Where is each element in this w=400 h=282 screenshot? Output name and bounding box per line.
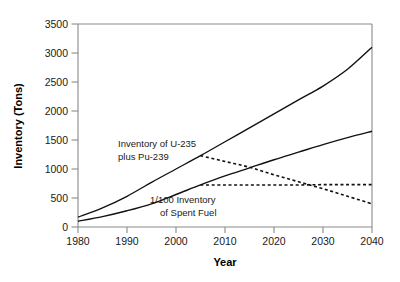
inventory-line-chart: 3500 3000 2500 2000 1500 1000 500 0 1980… [0,0,400,282]
annotation-lower-line1: 1/100 Inventory [150,194,216,205]
x-tick-2020: 2020 [262,235,286,247]
annotation-upper-line1: Inventory of U-235 [118,138,196,149]
x-axis-title: Year [213,256,237,268]
x-tick-1990: 1990 [115,235,139,247]
x-tick-labels: 1980 1990 2000 2010 2020 2030 2040 [66,235,384,247]
y-tick-500: 500 [50,192,68,204]
y-tick-2000: 2000 [45,105,69,117]
y-axis-ticks [72,24,79,227]
annotation-upper: Inventory of U-235 plus Pu-239 [118,138,196,162]
x-axis-ticks [78,227,372,233]
x-tick-2040: 2040 [360,235,384,247]
x-tick-2030: 2030 [311,235,335,247]
y-tick-0: 0 [62,221,68,233]
y-tick-3500: 3500 [45,18,69,30]
x-tick-1980: 1980 [66,235,90,247]
x-tick-2000: 2000 [164,235,188,247]
y-tick-2500: 2500 [45,76,69,88]
annotation-upper-line2: plus Pu-239 [118,151,169,162]
series-group [78,47,372,221]
plot-frame [78,24,372,227]
y-axis-title: Inventory (Tons) [12,83,24,169]
y-tick-3000: 3000 [45,47,69,59]
series-u235-pu239-dashed [201,156,373,204]
annotation-lower: 1/100 Inventory of Spent Fuel [150,194,217,218]
series-u235-pu239-solid [78,47,372,217]
y-tick-labels: 3500 3000 2500 2000 1500 1000 500 0 [45,18,69,233]
y-tick-1500: 1500 [45,134,69,146]
y-tick-1000: 1000 [45,163,69,175]
annotation-lower-line2: of Spent Fuel [160,207,217,218]
x-tick-2010: 2010 [213,235,237,247]
